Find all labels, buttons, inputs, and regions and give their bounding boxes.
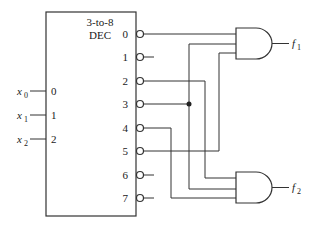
inversion-bubble-icon xyxy=(137,125,144,132)
wire-out3-bus xyxy=(189,44,236,189)
and-gate-f1: f 1 xyxy=(236,28,301,59)
decoder-output-6: 6 xyxy=(123,169,155,181)
inversion-bubble-icon xyxy=(137,148,144,155)
svg-text:2: 2 xyxy=(123,75,129,87)
decoder-block xyxy=(46,12,136,216)
inversion-bubble-icon xyxy=(137,101,144,108)
and-gate-icon xyxy=(236,172,272,203)
inversion-bubble-icon xyxy=(137,172,144,179)
junction-dot-icon xyxy=(187,102,192,107)
inversion-bubble-icon xyxy=(137,31,144,38)
svg-text:1: 1 xyxy=(297,43,301,52)
svg-text:0: 0 xyxy=(51,85,57,97)
wire-out2-to-f2 xyxy=(144,81,237,178)
decoder-output-7: 7 xyxy=(123,192,155,204)
and-gate-icon xyxy=(236,28,272,59)
svg-text:4: 4 xyxy=(123,122,129,134)
inversion-bubble-icon xyxy=(137,78,144,85)
svg-text:5: 5 xyxy=(123,145,129,157)
svg-text:x: x xyxy=(16,109,22,121)
svg-text:1: 1 xyxy=(51,109,57,121)
decoder-title-line1: 3-to-8 xyxy=(87,16,114,28)
wire-out4-to-f2 xyxy=(144,128,237,198)
svg-text:2: 2 xyxy=(24,139,28,148)
inversion-bubble-icon xyxy=(137,54,144,61)
svg-text:3: 3 xyxy=(123,98,129,110)
inversion-bubble-icon xyxy=(137,195,144,202)
svg-text:2: 2 xyxy=(297,187,301,196)
svg-text:6: 6 xyxy=(123,169,129,181)
and-gate-f2: f 2 xyxy=(236,172,301,203)
svg-text:1: 1 xyxy=(123,51,129,63)
svg-text:1: 1 xyxy=(24,115,28,124)
svg-text:x: x xyxy=(16,133,22,145)
svg-text:7: 7 xyxy=(123,192,129,204)
decoder-output-1: 1 xyxy=(123,51,155,63)
svg-text:0: 0 xyxy=(123,28,129,40)
svg-text:0: 0 xyxy=(24,91,28,100)
svg-text:2: 2 xyxy=(51,133,57,145)
svg-text:x: x xyxy=(16,85,22,97)
circuit-diagram: 3-to-8 DEC x 0 0 x 1 1 x 2 2 0 1 2 3 4 xyxy=(0,0,315,228)
decoder-title-line2: DEC xyxy=(89,29,111,41)
